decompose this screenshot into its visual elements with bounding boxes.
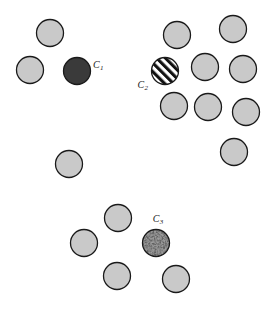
disc-plain: [233, 99, 260, 126]
disc-plain: [104, 263, 131, 290]
disc-plain: [221, 139, 248, 166]
disc-plain: [230, 56, 257, 83]
disc-plain: [105, 205, 132, 232]
figure-canvas: C1C2C3: [0, 0, 271, 316]
disc-plain: [164, 22, 191, 49]
disc-plain: [220, 16, 247, 43]
disc-plain: [163, 266, 190, 293]
disc-arrangement-figure: C1C2C3: [0, 0, 271, 316]
disc-plain: [17, 57, 44, 84]
disc-highlight-C1: [64, 58, 91, 85]
disc-highlight-C2: [152, 58, 179, 85]
disc-plain: [71, 230, 98, 257]
disc-plain: [56, 151, 83, 178]
disc-plain: [192, 54, 219, 81]
disc-cluster-isolated-middle-left: [56, 151, 83, 178]
disc-plain: [161, 93, 188, 120]
disc-plain: [195, 94, 222, 121]
disc-plain: [37, 20, 64, 47]
